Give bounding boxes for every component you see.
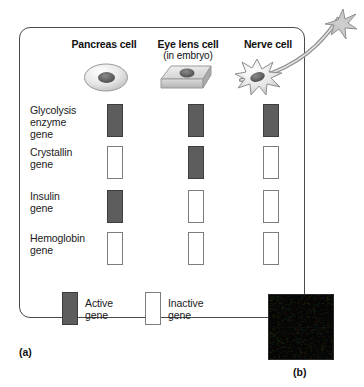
gene-bar-hemoglobin-nerve bbox=[263, 232, 279, 265]
gene-label-line-1: Crystallin bbox=[30, 146, 110, 158]
gene-label-line-1: Insulin bbox=[30, 190, 110, 202]
gene-bar-crystallin-eye-lens bbox=[188, 146, 204, 179]
gene-label-line-1: Hemoglobin bbox=[30, 232, 110, 244]
column-header-eye-lens: Eye lens cell (in embryo) bbox=[146, 38, 230, 62]
stellate-cell-icon bbox=[233, 55, 285, 99]
gene-bar-hemoglobin-eye-lens bbox=[188, 232, 204, 265]
panel-label-b: (b) bbox=[293, 366, 306, 378]
column-title-eye-lens: Eye lens cell bbox=[157, 38, 218, 50]
legend-label-active-line-2: gene bbox=[85, 309, 113, 321]
gene-bar-insulin-nerve bbox=[263, 190, 279, 223]
gene-label-line-2: gene bbox=[30, 202, 110, 214]
gene-label-insulin: Insulin gene bbox=[30, 190, 110, 214]
gene-bar-hemoglobin-pancreas bbox=[107, 232, 123, 265]
legend-swatch-inactive bbox=[145, 292, 161, 325]
legend-label-active-line-1: Active bbox=[85, 297, 113, 309]
column-title-nerve: Nerve cell bbox=[244, 38, 292, 50]
panel-label-a: (a) bbox=[19, 346, 32, 358]
column-header-nerve: Nerve cell bbox=[231, 38, 305, 50]
legend-label-inactive-line-1: Inactive bbox=[168, 297, 203, 309]
microarray-spots bbox=[269, 295, 333, 359]
legend-label-active: Active gene bbox=[85, 297, 113, 321]
legend-label-inactive: Inactive gene bbox=[168, 297, 203, 321]
gene-label-line-2: enzyme bbox=[30, 116, 110, 128]
figure-gene-expression: Pancreas cell Eye lens cell (in embryo) … bbox=[0, 0, 364, 387]
gene-label-line-3: gene bbox=[30, 128, 110, 140]
gene-bar-crystallin-nerve bbox=[263, 146, 279, 179]
gene-bar-insulin-eye-lens bbox=[188, 190, 204, 223]
gene-bar-glycolysis-enzyme-eye-lens bbox=[188, 104, 204, 137]
gene-label-crystallin: Crystallin gene bbox=[30, 146, 110, 170]
oval-cell-icon bbox=[82, 60, 130, 94]
gene-bar-glycolysis-enzyme-pancreas bbox=[107, 104, 123, 137]
gene-bar-insulin-pancreas bbox=[107, 190, 123, 223]
column-header-pancreas: Pancreas cell bbox=[64, 38, 144, 50]
gene-label-line-2: gene bbox=[30, 244, 110, 256]
dna-microarray-image bbox=[268, 294, 334, 360]
gene-label-line-1: Glycolysis bbox=[30, 104, 110, 116]
gene-bar-crystallin-pancreas bbox=[107, 146, 123, 179]
legend-label-inactive-line-2: gene bbox=[168, 309, 203, 321]
column-title-pancreas: Pancreas cell bbox=[71, 38, 136, 50]
cuboid-cell-icon bbox=[159, 62, 217, 94]
legend-swatch-active bbox=[62, 292, 78, 325]
column-subtitle-eye-lens: (in embryo) bbox=[146, 50, 230, 62]
gene-label-glycolysis-enzyme: Glycolysis enzyme gene bbox=[30, 104, 110, 141]
gene-label-hemoglobin: Hemoglobin gene bbox=[30, 232, 110, 256]
gene-label-line-2: gene bbox=[30, 158, 110, 170]
gene-bar-glycolysis-enzyme-nerve bbox=[263, 104, 279, 137]
